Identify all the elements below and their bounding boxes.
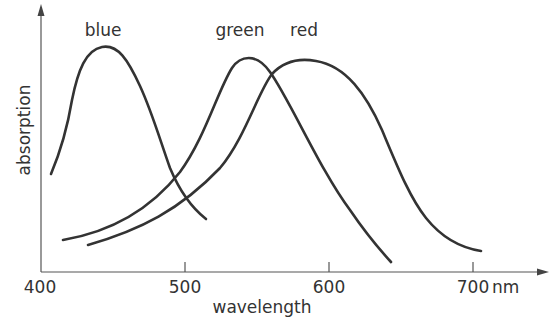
x-tick-label-600: 600 [313, 277, 345, 297]
x-tick-label-500: 500 [169, 277, 201, 297]
series-label-red: red [290, 20, 318, 40]
blue-curve [51, 47, 206, 219]
x-tick-label-700: 700 [457, 277, 489, 297]
y-axis-label: absorption [14, 85, 34, 176]
x-axis-arrow-icon [537, 269, 549, 276]
x-unit-label: nm [492, 277, 519, 297]
series-label-blue: blue [85, 20, 122, 40]
chart-canvas: blue green red absorption 400 500 600 70… [0, 0, 551, 328]
red-curve [88, 60, 481, 251]
x-tick-label-400: 400 [24, 277, 56, 297]
x-axis-label: wavelength [212, 297, 311, 317]
series-label-green: green [215, 20, 264, 40]
absorption-spectrum-chart: blue green red absorption 400 500 600 70… [0, 0, 551, 328]
y-axis-arrow-icon [38, 4, 45, 16]
